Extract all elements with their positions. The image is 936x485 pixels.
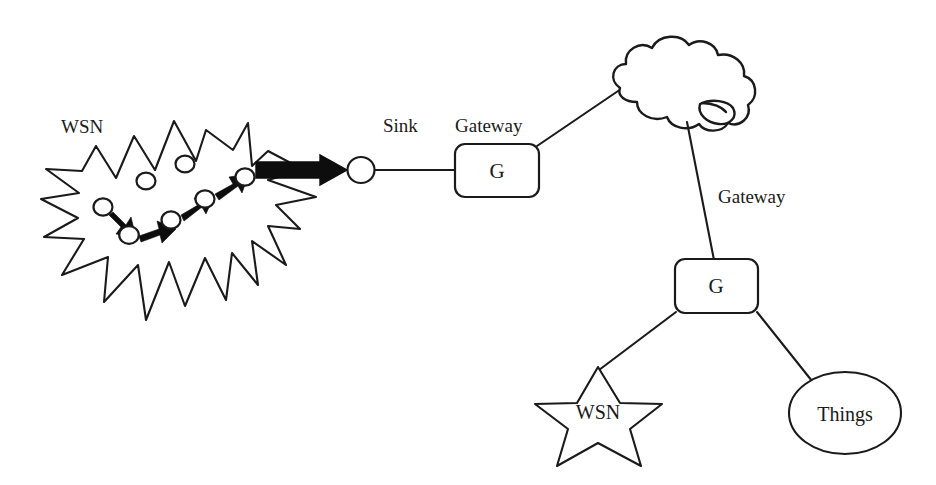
things-label: Things [817, 403, 873, 426]
sensor-node-idle-2 [176, 156, 195, 173]
gateway-top-letter: G [489, 159, 504, 183]
sensor-node-5 [236, 168, 255, 185]
gateway-bottom-letter: G [708, 274, 723, 298]
sensor-node-1 [94, 198, 113, 215]
wsn-burst-label: WSN [61, 116, 104, 137]
gateway-bottom-label: Gateway [718, 186, 786, 207]
sensor-node-4 [196, 190, 215, 207]
gateway-top-label: Gateway [455, 115, 523, 136]
gateway-top-to-cloud-line [537, 89, 621, 146]
sensor-node-2 [119, 226, 139, 244]
sink-label: Sink [383, 115, 418, 136]
diagram-canvas: WSN Sink Gateway G [0, 0, 936, 485]
sink-node [348, 157, 375, 183]
gateway-bottom-to-wsn-star-line [599, 312, 676, 370]
gateway-bottom-to-things-line [757, 312, 812, 381]
sensor-node-idle-1 [137, 173, 156, 190]
wsn-iot-architecture-diagram: WSN Sink Gateway G [0, 0, 936, 485]
cloud-to-gateway-bottom-line [687, 122, 714, 260]
wsn-star-label: WSN [576, 401, 620, 423]
sensor-node-3 [162, 211, 181, 228]
